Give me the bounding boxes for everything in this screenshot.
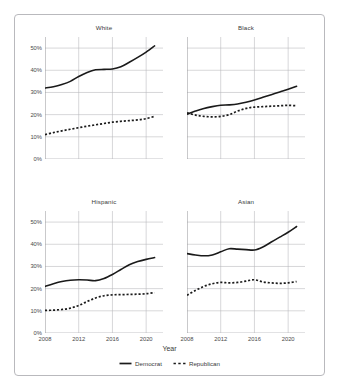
x-axis-title: Year xyxy=(15,345,324,352)
x-axis-tick-label: 2020 xyxy=(282,336,295,342)
y-axis-tick-label: 50% xyxy=(30,45,42,51)
facet-panel-black: Black xyxy=(187,37,305,159)
facet-panel-asian: Asian 2008201220162020 xyxy=(187,211,305,333)
y-axis-tick-label: 40% xyxy=(30,67,42,73)
y-axis-tick-label: 30% xyxy=(30,263,42,269)
x-axis-tick-label: 2016 xyxy=(106,336,119,342)
y-axis-tick-label: 40% xyxy=(30,241,42,247)
y-axis-tick-label: 50% xyxy=(30,219,42,225)
facet-title-asian: Asian xyxy=(187,198,305,205)
series-line-republican xyxy=(45,116,155,134)
x-axis-tick-label: 2008 xyxy=(39,336,52,342)
facet-title-hispanic: Hispanic xyxy=(45,198,163,205)
y-axis-tick-label: 30% xyxy=(30,89,42,95)
series-line-democrat xyxy=(45,46,155,88)
facet-title-black: Black xyxy=(187,24,305,31)
x-axis-tick-label: 2012 xyxy=(214,336,227,342)
facet-plot-area xyxy=(187,211,305,333)
series-line-republican xyxy=(45,293,155,311)
chart-legend: Democrat Republican xyxy=(15,360,324,367)
x-axis-tick-label: 2016 xyxy=(248,336,261,342)
x-axis-tick-label: 2008 xyxy=(181,336,194,342)
y-axis-tick-label: 10% xyxy=(30,134,42,140)
legend-swatch-solid-icon xyxy=(119,361,132,366)
y-axis-tick-label: 20% xyxy=(30,286,42,292)
series-line-democrat xyxy=(187,227,297,256)
series-line-republican xyxy=(187,105,297,117)
legend-label-democrat: Democrat xyxy=(135,360,162,367)
legend-entry-republican: Republican xyxy=(173,360,220,367)
facet-panel-white: White 0%10%20%30%40%50% xyxy=(45,37,163,159)
y-axis-tick-label: 10% xyxy=(30,308,42,314)
legend-swatch-dotted-icon xyxy=(173,361,186,366)
legend-label-republican: Republican xyxy=(189,360,220,367)
x-axis-tick-label: 2012 xyxy=(72,336,85,342)
series-line-democrat xyxy=(45,258,155,287)
y-axis-tick-label: 0% xyxy=(34,156,42,162)
chart-figure: White 0%10%20%30%40%50% Black Hispanic 0… xyxy=(14,14,325,376)
facet-plot-area xyxy=(187,37,305,159)
x-axis-tick-label: 2020 xyxy=(140,336,153,342)
legend-entry-democrat: Democrat xyxy=(119,360,162,367)
y-axis-tick-label: 20% xyxy=(30,112,42,118)
facet-panel-hispanic: Hispanic 0%10%20%30%40%50%20082012201620… xyxy=(45,211,163,333)
facet-plot-area xyxy=(45,211,163,333)
facet-plot-area xyxy=(45,37,163,159)
series-line-republican xyxy=(187,280,297,296)
facet-title-white: White xyxy=(45,24,163,31)
